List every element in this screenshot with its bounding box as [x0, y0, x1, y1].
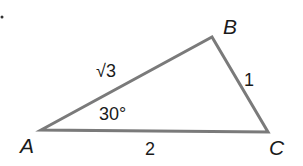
triangle-figure: A B C √3 1 2 30° [0, 0, 303, 166]
side-label-ac: 2 [145, 139, 155, 159]
side-label-bc: 1 [244, 70, 254, 90]
bullet-dot [1, 16, 4, 19]
triangle-abc [41, 37, 268, 132]
angle-label-a: 30° [99, 104, 126, 124]
side-label-ab: √3 [96, 61, 116, 81]
vertex-label-b: B [223, 15, 237, 38]
triangle-diagram: A B C √3 1 2 30° [0, 0, 303, 166]
vertex-label-a: A [18, 134, 34, 157]
vertex-label-c: C [269, 136, 285, 159]
